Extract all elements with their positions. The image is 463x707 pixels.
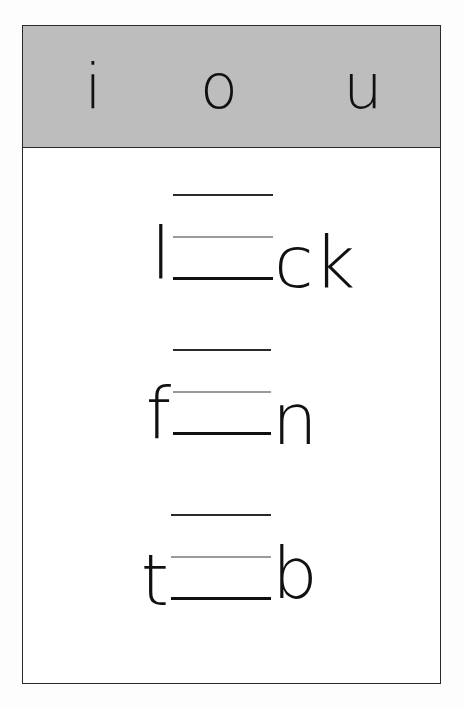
rule-line-top	[173, 349, 271, 351]
vowel-option-u[interactable]: u	[343, 56, 382, 118]
handwriting-blank[interactable]: f n	[173, 349, 271, 435]
rule-line-middle	[173, 236, 273, 238]
word-suffix-letters: n	[272, 383, 318, 455]
vowel-header-band: i o u	[23, 26, 440, 148]
word-prefix-letter: l	[151, 217, 171, 289]
rule-line-bottom	[173, 432, 271, 435]
rule-line-bottom	[173, 277, 273, 280]
worksheet-frame: i o u l ck f n t	[22, 25, 441, 684]
rule-line-middle	[173, 391, 271, 393]
rule-line-bottom	[171, 597, 271, 600]
word-suffix-letters: b	[272, 537, 318, 609]
word-exercise-row: l ck	[23, 186, 440, 336]
word-exercise-list: l ck f n t b	[23, 148, 440, 683]
vowel-option-i[interactable]: i	[84, 56, 101, 118]
word-prefix-letter: f	[146, 377, 171, 449]
vowel-option-o[interactable]: o	[200, 56, 238, 118]
rule-line-middle	[171, 556, 271, 558]
handwriting-blank[interactable]: t b	[171, 514, 271, 600]
rule-line-top	[171, 514, 271, 516]
word-prefix-letter: t	[141, 544, 169, 616]
word-exercise-row: t b	[23, 506, 440, 656]
word-exercise-row: f n	[23, 343, 440, 493]
rule-line-top	[173, 194, 273, 196]
word-suffix-letters: ck	[274, 226, 355, 298]
handwriting-blank[interactable]: l ck	[173, 194, 273, 280]
